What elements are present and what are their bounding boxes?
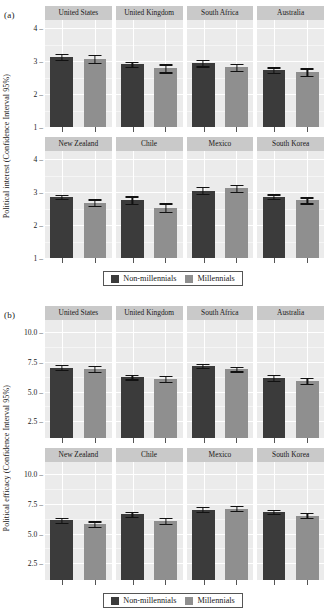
y-axis-tick: 5.0–	[28, 529, 43, 538]
bar-slot	[225, 320, 248, 438]
x-tick	[204, 580, 205, 585]
facet-strip-label: South Africa	[187, 6, 254, 20]
x-tick	[236, 258, 237, 263]
facets	[45, 462, 324, 580]
legend-item[interactable]: Non-millennials	[111, 274, 176, 283]
bar-slot	[296, 462, 319, 580]
y-axis-tick: 3–	[33, 57, 43, 66]
bar	[263, 70, 286, 127]
legend-label: Millennials	[197, 274, 234, 283]
facet-strip-label: South Africa	[187, 306, 254, 320]
error-bar-cap	[126, 67, 139, 68]
x-tick	[95, 580, 96, 585]
bar	[296, 72, 319, 127]
bar-group	[45, 20, 112, 127]
bar-slot	[121, 20, 144, 127]
legend-item[interactable]: Millennials	[185, 596, 234, 605]
facet-strip-label: Chile	[116, 137, 183, 151]
bar-group	[187, 320, 254, 438]
error-bar-cap	[89, 521, 102, 522]
x-tick-cell	[116, 438, 183, 445]
x-tick-cell	[257, 438, 324, 445]
bar	[296, 381, 319, 438]
x-tick	[274, 127, 275, 132]
legend-swatch	[185, 275, 193, 283]
legend-item[interactable]: Non-millennials	[111, 596, 176, 605]
x-axis-ticks	[22, 258, 324, 265]
error-bar-cap	[267, 199, 280, 200]
error-bar-cap	[301, 68, 314, 69]
panel-a: (a) Political interest (Confidence Inter…	[0, 0, 326, 292]
bar	[263, 197, 286, 258]
error-bar-cap	[89, 206, 102, 207]
facet-panel	[45, 320, 112, 438]
x-tick	[236, 580, 237, 585]
x-tick-cell	[257, 580, 324, 587]
bar-group	[45, 462, 112, 580]
bar	[50, 520, 73, 580]
bar-slot	[263, 320, 286, 438]
error-bar-cap	[55, 370, 68, 371]
bar	[192, 191, 215, 258]
facet-strip-label: United States	[45, 306, 112, 320]
facet-strip-label: Australia	[257, 306, 324, 320]
x-tick-cell	[187, 258, 254, 265]
error-bar-cap	[159, 72, 172, 73]
bar-group	[257, 462, 324, 580]
bar	[225, 67, 248, 127]
bar	[154, 379, 177, 438]
facet-strip-label: United States	[45, 6, 112, 20]
bar-group	[45, 320, 112, 438]
facet-panel	[116, 320, 183, 438]
bar	[192, 510, 215, 580]
legend: Non-millennialsMillennials	[22, 593, 324, 608]
error-bar-cap	[267, 67, 280, 68]
bar-slot	[84, 151, 107, 258]
bar-slot	[192, 462, 215, 580]
y-axis-tick: 7.5–	[28, 499, 43, 508]
facet-panel	[45, 151, 112, 258]
facet-strip-label: New Zealand	[45, 448, 112, 462]
error-bar-cap	[55, 195, 68, 196]
facet-strip-label: Australia	[257, 6, 324, 20]
error-bar-cap	[89, 527, 102, 528]
bar-group	[116, 320, 183, 438]
x-tick	[95, 438, 96, 443]
error-bar-cap	[301, 197, 314, 198]
error-bar-cap	[301, 518, 314, 519]
error-bar-cap	[197, 364, 210, 365]
y-axis: 4–3–2–1–	[22, 151, 45, 258]
x-axis-ticks	[22, 580, 324, 587]
x-tick	[62, 580, 63, 585]
error-bar-cap	[159, 203, 172, 204]
bar	[121, 514, 144, 580]
bar-slot	[192, 320, 215, 438]
y-axis-tick: 4–	[33, 155, 43, 164]
x-tick	[133, 127, 134, 132]
x-tick	[165, 580, 166, 585]
x-tick	[95, 258, 96, 263]
x-tick	[165, 258, 166, 263]
error-bar-cap	[126, 196, 139, 197]
facet-panel	[116, 462, 183, 580]
error-bar-cap	[230, 367, 243, 368]
facet-strip-label: South Korea	[257, 448, 324, 462]
x-tick	[133, 580, 134, 585]
bar-group	[257, 20, 324, 127]
legend-item[interactable]: Millennials	[185, 274, 234, 283]
facet-strip-row: United StatesUnited KingdomSouth AfricaA…	[22, 6, 324, 20]
legend-swatch	[111, 275, 119, 283]
bar	[154, 68, 177, 127]
bar	[121, 200, 144, 258]
facet-panel	[257, 462, 324, 580]
bar-slot	[263, 462, 286, 580]
bar-slot	[192, 151, 215, 258]
error-bar-cap	[126, 62, 139, 63]
x-tick	[204, 438, 205, 443]
y-axis-tick: 1–	[33, 123, 43, 132]
y-axis-tick: 4–	[33, 24, 43, 33]
figure-root: (a) Political interest (Confidence Inter…	[0, 0, 326, 616]
x-tick-cell	[187, 438, 254, 445]
x-tick-cell	[45, 127, 112, 134]
legend-swatch	[111, 597, 119, 605]
